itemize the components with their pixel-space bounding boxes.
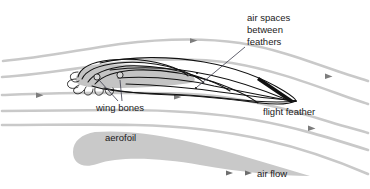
wing-bone-2 <box>117 72 123 78</box>
diagram-canvas: air spaces between feathers wing bones f… <box>0 0 370 189</box>
wing-bone-1 <box>94 74 100 80</box>
label-air-spaces-line1: air spaces <box>247 12 291 23</box>
label-aerofoil: aerofoil <box>105 132 136 143</box>
label-air-flow: air flow <box>257 168 287 179</box>
wing-aerofoil-diagram: air spaces between feathers wing bones f… <box>0 0 370 189</box>
label-air-spaces-line3: feathers <box>247 36 282 47</box>
flow-arrow-right-lower <box>308 126 316 131</box>
label-wing-bones: wing bones <box>95 102 144 113</box>
label-air-spaces-line2: between <box>247 24 283 35</box>
air-space-marker-2 <box>195 87 197 89</box>
air-flow-arrow-1 <box>226 171 233 176</box>
leader-air-spaces <box>197 47 245 87</box>
air-space-marker-1 <box>196 72 198 74</box>
label-flight-feather: flight feather <box>263 106 315 117</box>
flow-arrow-right-upper <box>325 74 333 79</box>
